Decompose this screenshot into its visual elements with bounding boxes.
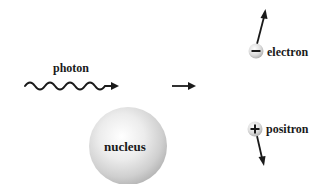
positron-track-icon <box>257 136 266 166</box>
electron-label: electron <box>267 46 308 58</box>
electron-track-icon <box>257 9 268 44</box>
electron-particle-icon <box>249 44 264 59</box>
nucleus-label: nucleus <box>104 140 146 153</box>
positron-label: positron <box>266 123 308 135</box>
process-arrow-icon <box>172 82 196 90</box>
pair-production-diagram: photon nucleus electron positron <box>0 0 325 184</box>
photon-label: photon <box>53 62 89 74</box>
positron-particle-icon <box>248 122 263 137</box>
diagram-canvas <box>0 0 325 184</box>
photon-wave-icon <box>25 82 119 90</box>
